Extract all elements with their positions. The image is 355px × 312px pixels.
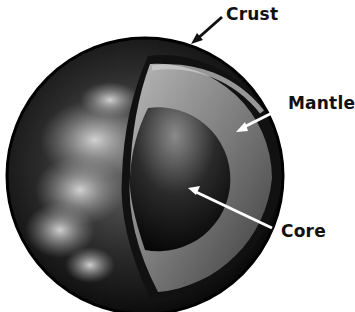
core-label: Core [281,221,326,241]
crust-arrow [191,17,222,44]
mantle-label: Mantle [288,93,355,113]
crust-label: Crust [226,4,278,24]
